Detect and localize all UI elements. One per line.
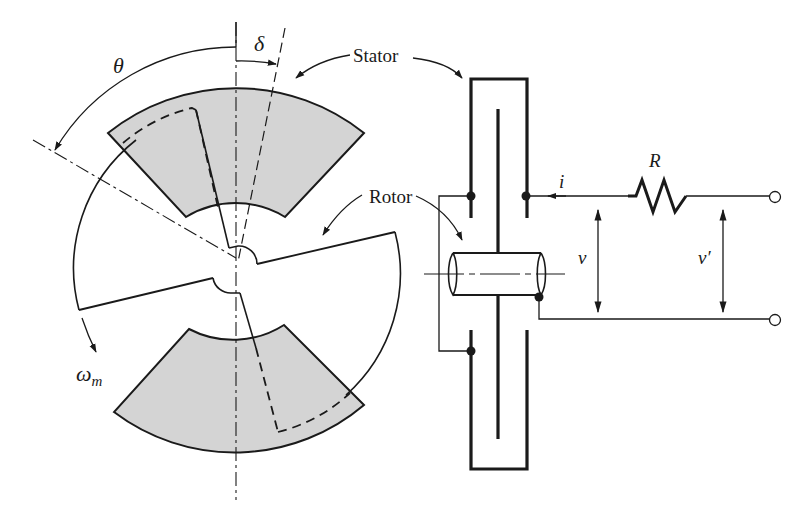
rotor-pointer-left bbox=[323, 195, 362, 235]
wire-bottom bbox=[539, 297, 770, 319]
resistor-label: R bbox=[648, 150, 661, 171]
omega-symbol: ω bbox=[76, 361, 92, 386]
rotor-outline-right bbox=[346, 232, 400, 395]
machine-cross-section bbox=[33, 22, 400, 500]
omega-subscript: m bbox=[92, 373, 103, 389]
omega-arrow bbox=[82, 318, 96, 352]
omega-label: ωm bbox=[76, 361, 103, 389]
electrical-assembly bbox=[413, 58, 781, 469]
terminal-top[interactable] bbox=[770, 192, 781, 203]
stator-label: Stator bbox=[353, 45, 399, 66]
terminal-bottom[interactable] bbox=[770, 315, 781, 326]
delta-arc bbox=[236, 61, 276, 64]
machine-diagram: θ δ Stator Rotor ωm bbox=[0, 0, 810, 517]
rotor-arm-right bbox=[257, 232, 395, 264]
theta-label: θ bbox=[113, 53, 124, 78]
rotor-label: Rotor bbox=[369, 186, 413, 207]
rotor-outline bbox=[74, 140, 136, 310]
current-label: i bbox=[559, 171, 564, 192]
resistor bbox=[628, 180, 686, 212]
voltage-vprime-label: v′ bbox=[698, 247, 711, 268]
rotor-arm-left bbox=[79, 278, 213, 310]
delta-label: δ bbox=[254, 31, 265, 56]
voltage-v-label: v bbox=[578, 247, 587, 268]
stator-pointer-left bbox=[296, 55, 350, 78]
stator-pole-bottom bbox=[114, 325, 364, 452]
stator-pointer-right bbox=[413, 58, 462, 78]
rotor-hub-upper bbox=[229, 246, 257, 264]
